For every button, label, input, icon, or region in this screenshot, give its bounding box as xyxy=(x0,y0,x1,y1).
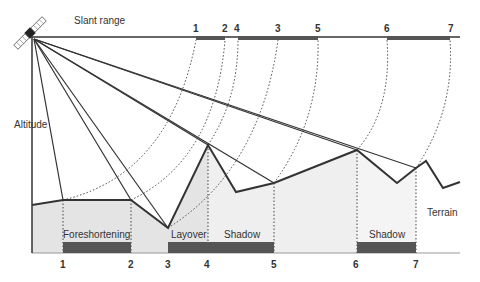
ground-tick-5: 5 xyxy=(271,259,277,270)
ground-bar-shadow-2 xyxy=(357,242,416,253)
slant-bar-4-5 xyxy=(238,36,318,40)
ground-tick-6: 6 xyxy=(353,259,359,270)
satellite-icon xyxy=(13,16,47,50)
altitude-label: Altitude xyxy=(14,119,48,130)
ground-tick-3: 3 xyxy=(165,259,171,270)
slant-tick-4: 4 xyxy=(234,23,240,34)
ground-bar-foreshortening xyxy=(63,242,131,253)
slant-bar-1-2 xyxy=(196,36,225,40)
ground-bar-layover-shadow xyxy=(168,242,274,253)
sar-geometry-diagram: Slant range Altitude Terrain Foreshorten… xyxy=(0,0,480,282)
slant-tick-3: 3 xyxy=(275,23,281,34)
slant-tick-7: 7 xyxy=(448,23,454,34)
ground-tick-7: 7 xyxy=(413,259,419,270)
slant-tick-2: 2 xyxy=(222,23,228,34)
slant-tick-1: 1 xyxy=(193,23,199,34)
ground-tick-1: 1 xyxy=(60,259,66,270)
shadow-label-1: Shadow xyxy=(224,229,261,240)
slant-range-label: Slant range xyxy=(74,15,126,26)
foreshortening-label: Foreshortening xyxy=(63,229,130,240)
terrain-label: Terrain xyxy=(427,207,458,218)
slant-tick-5: 5 xyxy=(315,23,321,34)
shadow-label-2: Shadow xyxy=(369,229,406,240)
slant-bar-6-7 xyxy=(387,36,450,40)
ground-tick-2: 2 xyxy=(128,259,134,270)
layover-label: Layover xyxy=(171,229,207,240)
ground-tick-4: 4 xyxy=(204,259,210,270)
slant-tick-6: 6 xyxy=(384,23,390,34)
